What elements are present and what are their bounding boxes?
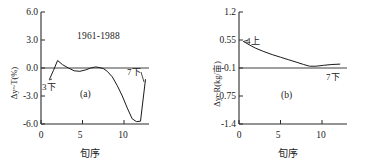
chart-panel-a: Δy~T(%) 6.0 3.0 0.0 -3.0 -6.0 0 5 10 旬序 … [0, 0, 186, 167]
plot-area-a [0, 0, 186, 167]
chart-panel-b: Δy~R(kg/亩) 1.2 0.55 -0.1 -0.75 -1.4 0 5 … [186, 0, 372, 167]
data-series-delta-y-t [49, 61, 145, 122]
leader-line-7xia [141, 72, 144, 82]
leader-line-4shang [244, 40, 249, 42]
figure-container: Δy~T(%) 6.0 3.0 0.0 -3.0 -6.0 0 5 10 旬序 … [0, 0, 372, 167]
plot-area-b [186, 0, 372, 167]
data-series-delta-y-r [243, 41, 340, 66]
